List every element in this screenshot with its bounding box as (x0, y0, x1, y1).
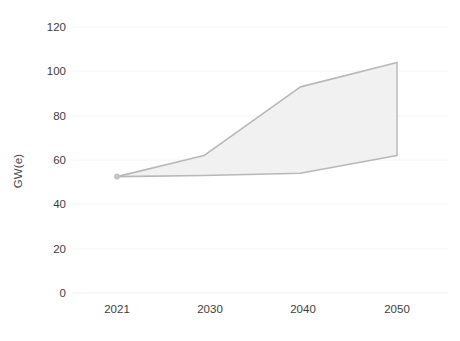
x-tick-2050: 2050 (384, 303, 410, 315)
x-tick-2040: 2040 (290, 303, 316, 315)
x-tick-2030: 2030 (197, 303, 223, 315)
x-tick-2021: 2021 (104, 303, 130, 315)
start-point-marker (114, 174, 119, 179)
chart-container: GW(e) 120 100 80 60 40 20 0 2021 2030 20… (0, 0, 460, 341)
chart-plot (0, 0, 460, 341)
